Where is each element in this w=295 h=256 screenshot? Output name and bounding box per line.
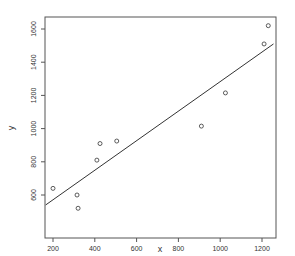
data-point — [75, 193, 79, 197]
data-point — [266, 24, 270, 28]
y-tick-label: 1000 — [30, 121, 37, 137]
data-point — [76, 206, 80, 210]
y-tick-label: 1400 — [30, 54, 37, 70]
data-point — [199, 124, 203, 128]
y-tick-label: 1200 — [30, 88, 37, 104]
data-points — [51, 24, 270, 211]
data-point — [223, 91, 227, 95]
data-point — [51, 186, 55, 190]
y-tick-label: 1600 — [30, 21, 37, 37]
x-tick-label: 1000 — [212, 245, 228, 252]
y-tick-label: 600 — [30, 189, 37, 201]
x-tick-label: 1200 — [254, 245, 270, 252]
data-point — [262, 42, 266, 46]
y-axis-label: y — [6, 125, 16, 130]
x-tick-label: 200 — [47, 245, 59, 252]
data-point — [95, 158, 99, 162]
scatter-plot: 20040060080010001200 6008001000120014001… — [0, 0, 295, 256]
x-tick-label: 400 — [89, 245, 101, 252]
y-axis: 6008001000120014001600 — [30, 21, 45, 201]
plot-box — [45, 17, 276, 238]
x-tick-label: 800 — [173, 245, 185, 252]
y-tick-label: 800 — [30, 156, 37, 168]
data-point — [98, 142, 102, 146]
regression-line — [46, 44, 274, 205]
x-tick-label: 600 — [131, 245, 143, 252]
data-point — [115, 139, 119, 143]
x-axis-label: x — [158, 244, 163, 254]
